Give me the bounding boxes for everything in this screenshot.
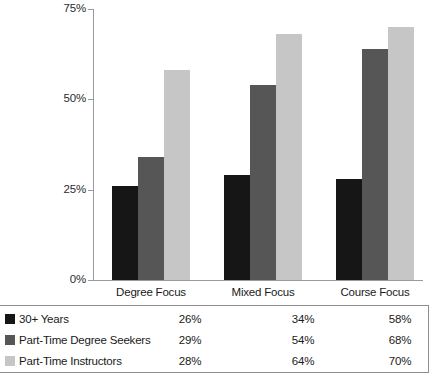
table-cell-value: 28% [150,354,230,368]
y-axis-tick-0 [88,280,93,281]
bar [224,175,250,280]
bar-group [336,9,414,280]
y-axis-tick-50 [88,99,93,100]
legend-series-label: 30+ Years [19,312,69,326]
x-axis-category-label: Degree Focus [91,286,211,298]
table-cell-value: 58% [360,312,430,326]
bar [276,34,302,280]
legend-data-table: 30+ Years26%34%58%Part-Time Degree Seeke… [0,305,430,375]
y-axis-tick-25 [88,190,93,191]
bar [138,157,164,280]
x-axis-line [93,280,423,281]
table-cell-value: 54% [263,333,343,347]
legend-series-label: Part-Time Instructors [19,354,122,368]
bar-chart: 75% 50% 25% 0% Degree Focus Mixed Focus … [0,0,430,290]
bar [362,49,388,280]
table-top-rule [0,305,429,306]
y-axis-label-25: 25% [48,184,86,196]
table-cell-value: 34% [263,312,343,326]
bar [250,85,276,280]
y-axis-label-50: 50% [48,93,86,105]
legend-series-label: Part-Time Degree Seekers [19,333,151,347]
bar-group [112,9,190,280]
legend-swatch-icon [5,314,15,324]
bar [388,27,414,280]
y-axis-tick-75 [88,9,93,10]
y-axis-label-75: 75% [48,3,86,15]
bar [164,70,190,280]
x-axis-category-label: Course Focus [315,286,430,298]
bar [336,179,362,280]
bar [112,186,138,280]
legend-swatch-icon [5,356,15,366]
table-row: Part-Time Degree Seekers29%54%68% [0,330,430,352]
plot-area [94,9,423,280]
table-cell-value: 70% [360,354,430,368]
x-axis-category-label: Mixed Focus [203,286,323,298]
table-row: Part-Time Instructors28%64%70% [0,351,430,373]
table-cell-value: 64% [263,354,343,368]
y-axis-label-0: 0% [48,274,86,286]
bar-group [224,9,302,280]
legend-swatch-icon [5,335,15,345]
table-row: 30+ Years26%34%58% [0,309,430,331]
table-cell-value: 68% [360,333,430,347]
table-cell-value: 29% [150,333,230,347]
table-cell-value: 26% [150,312,230,326]
